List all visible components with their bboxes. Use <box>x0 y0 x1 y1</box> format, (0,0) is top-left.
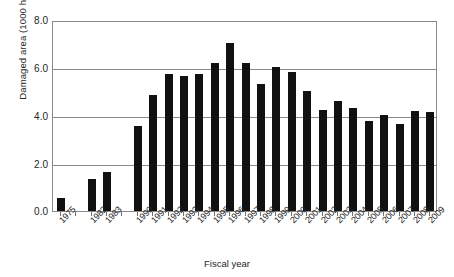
x-axis-title: Fiscal year <box>0 258 454 269</box>
bar-1994 <box>195 74 203 211</box>
bar-1998 <box>257 84 265 211</box>
bar-2000 <box>288 72 296 211</box>
bar-2007 <box>396 124 404 211</box>
bar-1999 <box>272 67 280 211</box>
bar-2006 <box>380 115 388 211</box>
bar-2004 <box>349 108 357 211</box>
y-tick-label-0: 0.0 <box>14 206 48 217</box>
bar-2005 <box>365 121 373 211</box>
bar-1993 <box>180 76 188 211</box>
chart-figure: Damaged area (1000 ha) 8.0 6.0 4.0 2.0 0… <box>0 0 454 277</box>
bar-2003 <box>334 101 342 211</box>
bar-1982 <box>88 179 96 211</box>
y-tick-label-4: 4.0 <box>14 111 48 122</box>
bar-2001 <box>303 91 311 211</box>
y-tick-label-6: 6.0 <box>14 63 48 74</box>
bar-1990 <box>134 126 142 212</box>
bar-1996 <box>226 43 234 211</box>
bar-1975 <box>57 198 65 211</box>
bar-1991 <box>149 95 157 211</box>
bar-1983 <box>103 172 111 211</box>
y-tick-label-8: 8.0 <box>14 15 48 26</box>
bar-2002 <box>319 110 327 211</box>
bar-2009 <box>426 112 434 211</box>
bar-1995 <box>211 63 219 211</box>
bar-1992 <box>165 74 173 211</box>
bar-1997 <box>242 63 250 211</box>
plot-area <box>52 21 437 212</box>
bar-2008 <box>411 111 419 211</box>
y-tick-label-2: 2.0 <box>14 159 48 170</box>
